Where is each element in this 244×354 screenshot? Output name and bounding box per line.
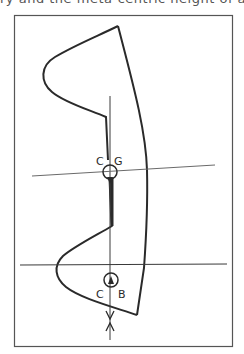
cb-label-c: C [96,288,104,301]
upright-waterline [20,264,227,265]
heeled-waterline [32,165,215,176]
cg-label-c: C [96,155,104,168]
cb-label-b: B [118,288,126,301]
keel-lower-lobe [57,226,137,315]
cg-label-g: G [114,155,123,168]
yacht-stability-diagram: C G C B [0,0,244,354]
cb-arrow-icon [108,276,114,284]
hull-section-outline [43,26,118,160]
